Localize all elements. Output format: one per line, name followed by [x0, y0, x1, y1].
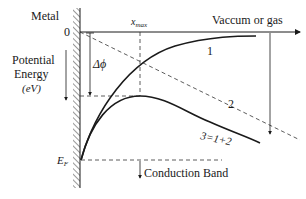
curve-2-label: 2 — [228, 97, 234, 111]
zero-label: 0 — [64, 25, 70, 39]
metal-wall-hatch — [73, 8, 80, 188]
potential-label-3: (eV) — [22, 82, 41, 95]
vacuum-label: Vaccum or gas — [212, 13, 283, 27]
potential-label-2: Energy — [14, 67, 48, 81]
conduction-band-label: Conduction Band — [144, 166, 228, 180]
metal-label: Metal — [31, 9, 60, 23]
curve-3-label: 3=1+2 — [199, 129, 234, 148]
delta-phi-label: Δϕ — [92, 57, 106, 71]
xmax-label: xmax — [130, 16, 148, 29]
curve-2-dashed — [80, 32, 300, 140]
potential-label-1: Potential — [12, 53, 55, 67]
curve-1-label: 1 — [207, 44, 213, 58]
fermi-label: EF — [56, 154, 69, 168]
schottky-diagram: Metal 0 Vaccum or gas xmax Δϕ Potential … — [0, 0, 306, 199]
